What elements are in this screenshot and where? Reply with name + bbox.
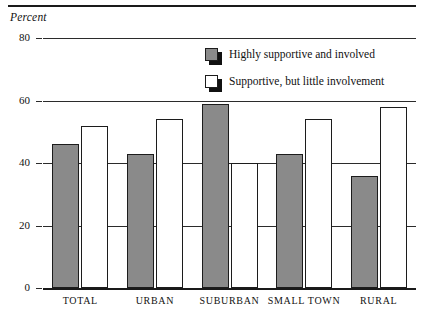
x-axis-label-suburban: SUBURBAN <box>192 295 267 306</box>
x-axis-label-rural: RURAL <box>341 295 416 306</box>
bar-total-series1 <box>81 126 108 289</box>
legend-swatch-white-icon <box>205 75 218 88</box>
legend-label-little-involvement: Supportive, but little involvement <box>229 75 384 87</box>
gridline-0 <box>43 288 416 290</box>
legend-item-highly-supportive: Highly supportive and involved <box>205 44 384 64</box>
x-axis-label-small-town: SMALL TOWN <box>267 295 342 306</box>
bar-urban-series1 <box>156 119 183 288</box>
y-tick-label-0: 0 <box>4 281 30 293</box>
tick-dash-80 <box>36 38 42 39</box>
legend-label-highly-supportive: Highly supportive and involved <box>229 48 375 60</box>
tick-dash-60 <box>36 101 42 102</box>
legend: Highly supportive and involved Supportiv… <box>205 44 384 98</box>
y-tick-label-20: 20 <box>4 219 30 231</box>
bar-rural-series1 <box>380 107 407 288</box>
bar-small-town-series1 <box>305 119 332 288</box>
tick-dash-0 <box>36 288 42 289</box>
x-axis-label-urban: URBAN <box>118 295 193 306</box>
tick-dash-40 <box>36 163 42 164</box>
tick-dash-20 <box>36 226 42 227</box>
bar-small-town-series0 <box>276 154 303 288</box>
bar-suburban-series1 <box>231 163 258 288</box>
gridline-80 <box>43 38 416 39</box>
bar-rural-series0 <box>351 176 378 289</box>
y-tick-label-80: 80 <box>4 31 30 43</box>
legend-swatch-gray-icon <box>205 48 218 61</box>
y-tick-label-60: 60 <box>4 94 30 106</box>
bar-suburban-series0 <box>202 104 229 288</box>
bar-total-series0 <box>52 144 79 288</box>
bar-urban-series0 <box>127 154 154 288</box>
x-axis-label-total: TOTAL <box>43 295 118 306</box>
legend-item-little-involvement: Supportive, but little involvement <box>205 71 384 91</box>
y-tick-label-40: 40 <box>4 156 30 168</box>
bar-chart: Percent 020406080TOTALURBANSUBURBANSMALL… <box>0 0 424 319</box>
gridline-60 <box>43 101 416 102</box>
